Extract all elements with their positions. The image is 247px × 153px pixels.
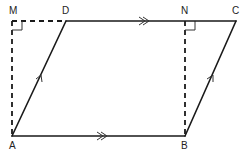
- right-angle-mark-m: [12, 21, 22, 30]
- label-a: A: [9, 140, 16, 151]
- label-d: D: [62, 5, 69, 16]
- label-c: C: [232, 5, 239, 16]
- right-angle-mark-n: [185, 21, 195, 30]
- segment-ad: [12, 21, 66, 136]
- parallelogram-diagram: M D N C A B: [0, 0, 247, 153]
- label-n: N: [181, 5, 188, 16]
- label-m: M: [9, 5, 17, 16]
- segment-bc: [185, 21, 236, 136]
- label-b: B: [181, 140, 188, 151]
